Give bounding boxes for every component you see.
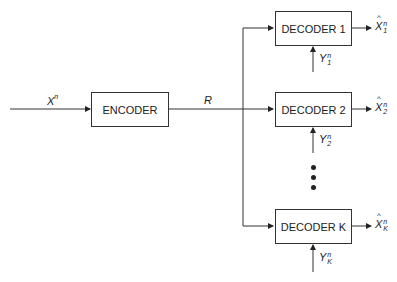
rate-label: R [204, 94, 212, 106]
ellipsis-dot [311, 165, 316, 170]
input-label: Xn [47, 94, 58, 107]
decoder-k-output-label: XnK [375, 218, 388, 232]
ellipsis-dot [311, 185, 316, 190]
decoder-k-block: DECODER K [275, 209, 352, 244]
decoder-2-side-info-label: Yn2 [319, 133, 331, 147]
decoder-1-block: DECODER 1 [275, 11, 352, 46]
encoder-block: ENCODER [91, 92, 169, 127]
decoder-1-output-label: Xn1 [375, 20, 387, 34]
decoder-2-output-label: Xn2 [375, 101, 387, 115]
ellipsis-dot [311, 175, 316, 180]
decoder-1-side-info-label: Yn1 [319, 52, 331, 66]
decoder-k-side-info-label: YnK [319, 251, 332, 265]
decoder-2-block: DECODER 2 [275, 92, 352, 127]
